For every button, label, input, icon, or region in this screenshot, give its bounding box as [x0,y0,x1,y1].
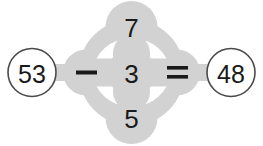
math-puzzle-diagram: 53 7 3 5 48 [0,0,263,146]
equals-sign-icon-top-bar [167,66,188,70]
puzzle-canvas: 53 7 3 5 48 [0,0,263,146]
equals-sign-icon-bottom-bar [167,75,188,79]
left-operand-value: 53 [18,60,46,88]
bottom-number-value: 5 [124,104,138,134]
minus-sign-icon [76,71,97,75]
top-number-value: 7 [124,13,138,43]
right-operand-value: 48 [217,60,245,88]
center-number-value: 3 [124,59,138,89]
